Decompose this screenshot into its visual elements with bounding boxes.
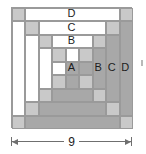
quilt-cell-a-ne	[79, 48, 92, 61]
quilt-cell-d-bottom-right-corner	[120, 116, 133, 129]
quilt-cell-d-left-strip	[12, 21, 25, 115]
quilt-block-figure: ABCDBCD 9	[0, 0, 146, 154]
dimension-value: 9	[64, 136, 79, 148]
dimension-value-wrap: 9	[11, 134, 132, 150]
quilt-cell-d-top-right-corner	[120, 8, 133, 21]
quilt-cell-b-bottom-strip	[52, 89, 92, 102]
quilt-cell-a-s	[66, 75, 79, 88]
quilt-cell-b-right-strip	[93, 48, 106, 88]
quilt-cell-c-top-left-corner	[25, 21, 38, 34]
quilt-cell-a-se	[79, 75, 92, 88]
quilt-cell-b-top-right-corner	[93, 35, 106, 48]
quilt-cell-c-bottom-strip	[39, 102, 106, 115]
quilt-cell-c-bottom-right-corner	[106, 102, 119, 115]
quilt-cell-b-top-strip	[52, 35, 92, 48]
quilt-cell-c-bottom-left-corner	[25, 102, 38, 115]
quilt-cell-c-top-right-corner	[106, 21, 119, 34]
width-dimension: 9	[11, 134, 132, 150]
quilt-cell-d-top-left-corner	[12, 8, 25, 21]
quilt-cell-c-right-strip	[106, 35, 119, 102]
quilt-cell-d-top-strip	[25, 8, 119, 21]
quilt-cell-a-w	[52, 62, 65, 75]
quilt-cell-c-top-strip	[39, 21, 106, 34]
quilt-cell-b-top-left-corner	[39, 35, 52, 48]
quilt-cell-b-bottom-right-corner	[93, 89, 106, 102]
quilt-cell-a-nw	[52, 48, 65, 61]
quilt-cell-d-bottom-left-corner	[12, 116, 25, 129]
quilt-cell-c-left-strip	[25, 35, 38, 102]
scan-speck	[141, 60, 143, 66]
quilt-cell-d-right-strip	[120, 21, 133, 115]
quilt-block	[11, 7, 132, 128]
quilt-cell-b-bottom-left-corner	[39, 89, 52, 102]
quilt-cell-a-center	[66, 62, 79, 75]
quilt-cell-d-bottom-strip	[25, 116, 119, 129]
quilt-cell-a-sw	[52, 75, 65, 88]
quilt-cell-a-n	[66, 48, 79, 61]
quilt-cell-a-e	[79, 62, 92, 75]
quilt-cell-b-left-strip	[39, 48, 52, 88]
